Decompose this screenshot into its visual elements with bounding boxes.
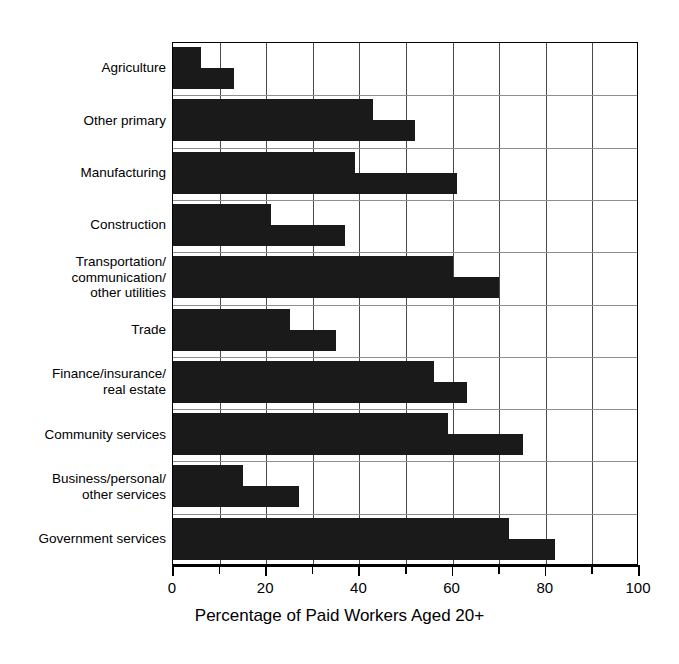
category-label: Trade xyxy=(0,322,166,338)
x-tick-label: 100 xyxy=(608,579,668,596)
bar xyxy=(173,382,467,403)
bar-group xyxy=(173,309,637,351)
x-tick-major xyxy=(638,565,640,576)
bar xyxy=(173,120,415,141)
x-tick-label: 80 xyxy=(515,579,575,596)
bar xyxy=(173,99,373,120)
category-label: Transportation/ communication/ other uti… xyxy=(0,254,166,301)
bar-group xyxy=(173,204,637,246)
bar xyxy=(173,434,523,455)
bar xyxy=(173,225,345,246)
x-tick-minor xyxy=(405,565,407,574)
category-label: Agriculture xyxy=(0,60,166,76)
category-separator xyxy=(173,461,637,462)
category-label: Manufacturing xyxy=(0,165,166,181)
bar xyxy=(173,309,290,330)
bar xyxy=(173,204,271,225)
x-tick-label: 60 xyxy=(422,579,482,596)
x-tick-major xyxy=(265,565,267,576)
category-label: Finance/insurance/ real estate xyxy=(0,366,166,397)
bar xyxy=(173,277,499,298)
category-label: Business/personal/ other services xyxy=(0,471,166,502)
bar-group xyxy=(173,152,637,194)
category-separator xyxy=(173,148,637,149)
category-separator xyxy=(173,95,637,96)
bar xyxy=(173,68,234,89)
category-separator xyxy=(173,200,637,201)
category-label: Construction xyxy=(0,217,166,233)
category-separator xyxy=(173,357,637,358)
bar xyxy=(173,173,457,194)
bar xyxy=(173,413,448,434)
bar xyxy=(173,361,434,382)
x-tick-label: 0 xyxy=(142,579,202,596)
x-tick-major xyxy=(172,565,174,576)
plot-area xyxy=(172,42,638,565)
x-tick-minor xyxy=(219,565,221,574)
category-label: Community services xyxy=(0,427,166,443)
bar-group xyxy=(173,99,637,141)
x-tick-label: 20 xyxy=(235,579,295,596)
bar xyxy=(173,465,243,486)
bar xyxy=(173,518,509,539)
x-tick-major xyxy=(545,565,547,576)
bar xyxy=(173,539,555,560)
bar xyxy=(173,256,453,277)
bar-group xyxy=(173,361,637,403)
x-tick-major xyxy=(358,565,360,576)
category-separator xyxy=(173,514,637,515)
x-axis-title: Percentage of Paid Workers Aged 20+ xyxy=(0,606,679,626)
bar xyxy=(173,47,201,68)
category-axis-labels: AgricultureOther primaryManufacturingCon… xyxy=(0,42,166,565)
bar-group xyxy=(173,47,637,89)
bar xyxy=(173,330,336,351)
category-separator xyxy=(173,409,637,410)
bar xyxy=(173,152,355,173)
bar-chart-figure: AgricultureOther primaryManufacturingCon… xyxy=(0,0,679,664)
bar-group xyxy=(173,413,637,455)
bar-group xyxy=(173,518,637,560)
x-tick-major xyxy=(452,565,454,576)
category-separator xyxy=(173,252,637,253)
category-label: Other primary xyxy=(0,113,166,129)
x-tick-minor xyxy=(312,565,314,574)
bar-group xyxy=(173,256,637,298)
bar-group xyxy=(173,465,637,507)
x-tick-minor xyxy=(498,565,500,574)
category-separator xyxy=(173,305,637,306)
x-tick-label: 40 xyxy=(328,579,388,596)
bar xyxy=(173,486,299,507)
x-tick-minor xyxy=(591,565,593,574)
category-label: Government services xyxy=(0,531,166,547)
